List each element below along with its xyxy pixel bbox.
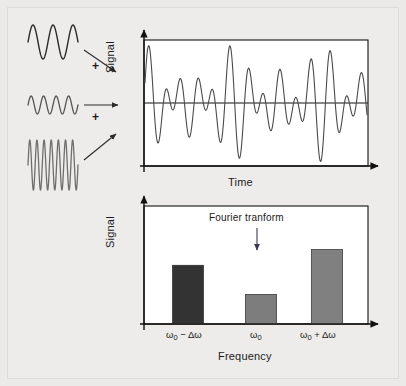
low-frequency-wave xyxy=(28,25,78,59)
y-axis-label-signal-top: Signal xyxy=(104,41,116,73)
tick2-post: + Δω xyxy=(312,329,336,340)
arrow-from-high-wave xyxy=(84,134,116,160)
fourier-transform-annotation: Fourier tranform xyxy=(209,212,284,223)
plus-sign-2: + xyxy=(92,110,99,124)
x-tick-omega-minus-delta: ω0 − Δω xyxy=(166,329,202,342)
spectrum-bar xyxy=(246,294,277,323)
x-tick-omega-plus-delta: ω0 + Δω xyxy=(300,329,336,342)
diagram-vector-layer xyxy=(0,0,406,386)
tick0-post: − Δω xyxy=(178,329,202,340)
tick1-sub: 0 xyxy=(257,333,261,342)
spectrum-bar xyxy=(312,250,343,324)
y-axis-label-signal-bottom: Signal xyxy=(104,216,116,248)
figure-canvas: + + Signal Time Signal Frequency Fourier… xyxy=(0,0,406,386)
time-domain-chart xyxy=(140,30,378,172)
high-frequency-wave xyxy=(28,140,78,190)
plus-sign-1: + xyxy=(92,59,99,73)
x-tick-omega-zero: ω0 xyxy=(250,329,262,342)
spectrum-bar xyxy=(173,265,204,323)
mid-frequency-wave xyxy=(28,96,78,114)
x-axis-label-frequency: Frequency xyxy=(218,350,272,362)
x-axis-label-time: Time xyxy=(228,176,253,188)
